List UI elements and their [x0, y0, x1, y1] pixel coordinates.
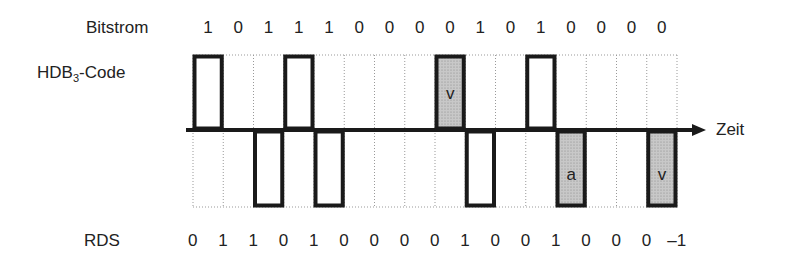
hdb3-signal-diagram: vav [0, 0, 791, 266]
svg-text:v: v [446, 84, 455, 103]
svg-text:v: v [658, 165, 667, 184]
svg-text:a: a [566, 165, 576, 184]
